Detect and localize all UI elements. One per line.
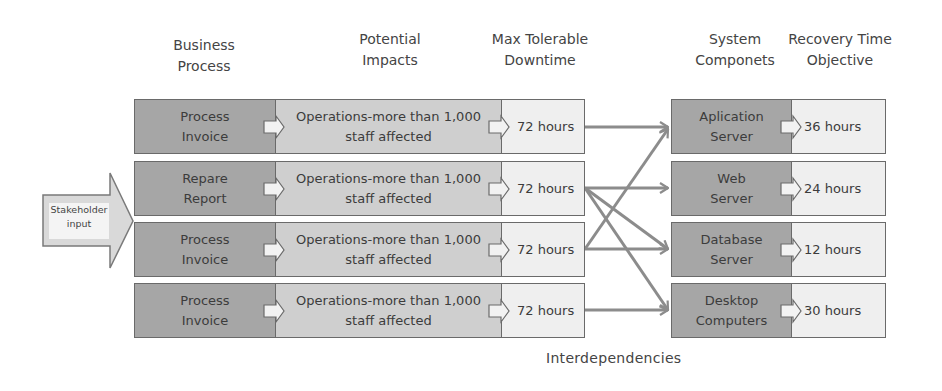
block-arrow-icon <box>264 300 284 322</box>
block-arrow-icon <box>264 116 284 138</box>
block-arrow-icon <box>489 116 509 138</box>
interdependencies-label: Interdependencies <box>546 350 681 366</box>
block-arrow-icon <box>264 178 284 200</box>
block-arrow-icon <box>781 300 801 322</box>
block-arrow-icon <box>489 239 509 261</box>
block-arrow-icon <box>781 239 801 261</box>
block-arrow-icon <box>264 239 284 261</box>
block-arrow-icon <box>489 178 509 200</box>
block-arrow-icon <box>781 178 801 200</box>
block-arrow-icon <box>489 300 509 322</box>
block-arrow-icon <box>781 116 801 138</box>
column-arrows <box>0 0 942 391</box>
